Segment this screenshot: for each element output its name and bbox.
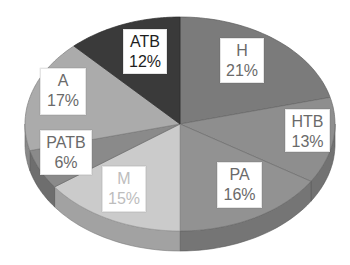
data-label-atb: ATB 12% — [123, 29, 167, 74]
data-label-a: A 17% — [40, 68, 86, 115]
data-label-h: H 21% — [220, 38, 264, 83]
label-percent: 17% — [44, 91, 82, 111]
label-category: H — [224, 41, 260, 61]
label-category: HTB — [289, 112, 326, 132]
data-label-pa: PA 16% — [217, 162, 262, 208]
label-percent: 6% — [44, 153, 88, 173]
label-percent: 12% — [127, 52, 163, 72]
data-label-htb: HTB 13% — [285, 109, 330, 152]
label-category: ATB — [127, 32, 163, 52]
label-category: PATB — [44, 133, 88, 153]
label-percent: 16% — [221, 185, 258, 205]
data-label-m: M 15% — [102, 166, 146, 212]
data-label-patb: PATB 6% — [40, 130, 92, 175]
label-category: M — [106, 169, 142, 189]
label-percent: 21% — [224, 61, 260, 81]
label-category: PA — [221, 165, 258, 185]
label-category: A — [44, 71, 82, 91]
label-percent: 13% — [289, 132, 326, 152]
label-percent: 15% — [106, 189, 142, 209]
